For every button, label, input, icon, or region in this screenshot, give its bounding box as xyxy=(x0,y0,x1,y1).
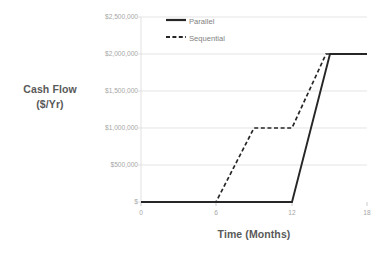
cash-flow-chart: Cash Flow ($/Yr) Time (Months) $2,500,00… xyxy=(0,0,391,255)
y-tick-marks xyxy=(137,17,141,202)
chart-canvas xyxy=(0,0,391,255)
gridlines xyxy=(141,17,367,165)
